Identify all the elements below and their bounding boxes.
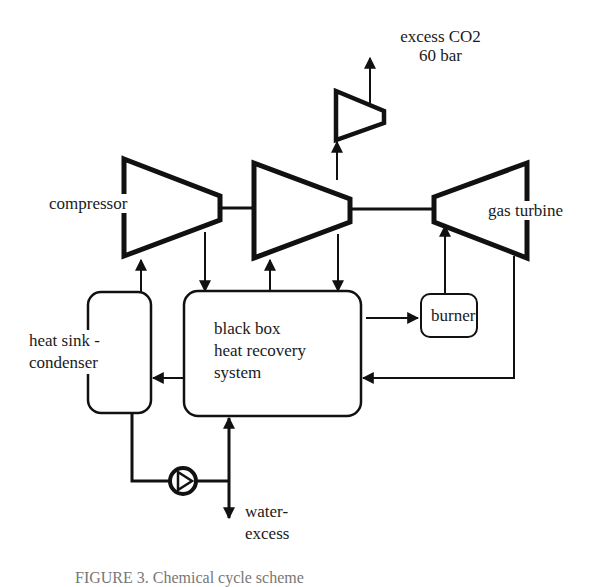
heat-recovery-line2: heat recovery <box>214 340 306 362</box>
water-excess-line1: water- <box>245 501 289 523</box>
heat-recovery-line1: black box <box>214 318 306 340</box>
water-excess-line2: excess <box>245 523 289 545</box>
excess-co2-line1: excess CO2 <box>388 27 493 46</box>
co2-compressor-small-shape <box>336 91 384 140</box>
water-excess-label: water- excess <box>245 501 289 545</box>
excess-co2-line2: 60 bar <box>388 46 493 65</box>
heat-sink-line1: heat sink - <box>29 330 100 352</box>
compressor-label: compressor <box>48 194 128 213</box>
line-heat-sink-to-pump <box>132 413 170 481</box>
heat-recovery-label: black box heat recovery system <box>214 318 306 384</box>
burner-label: burner <box>430 306 476 325</box>
excess-co2-label: excess CO2 60 bar <box>388 27 493 65</box>
figure-caption: FIGURE 3. Chemical cycle scheme <box>75 568 304 587</box>
gas-turbine-label: gas turbine <box>487 201 564 220</box>
heat-sink-label: heat sink - condenser <box>28 330 101 374</box>
heat-recovery-line3: system <box>214 362 306 384</box>
co2-compressor-main-shape <box>254 163 350 258</box>
heat-sink-line2: condenser <box>29 352 100 374</box>
